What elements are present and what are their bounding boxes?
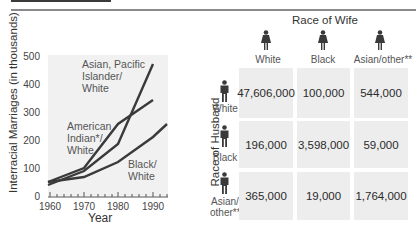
- x-tick: 1990: [138, 201, 168, 212]
- annotation-line: Black/: [128, 158, 157, 170]
- row-header-asian-other: Asian/ other**: [210, 196, 240, 218]
- annotation-line: White: [128, 170, 157, 182]
- table-cell: 47,606,000: [239, 68, 293, 118]
- table-cell: 196,000: [239, 121, 293, 168]
- row-header-white: White: [210, 103, 240, 114]
- annotation-american-indian-white: American Indian*/ White: [67, 120, 111, 156]
- male-figure-icon: [219, 172, 230, 194]
- x-tick: 1960: [35, 201, 65, 212]
- annotation-line: White: [67, 144, 111, 156]
- male-figure-icon: [219, 80, 230, 102]
- annotation-line: American: [67, 120, 111, 132]
- col-header-black: Black: [303, 54, 343, 65]
- annotation-line: Asian, Pacific: [82, 58, 145, 70]
- annotation-line: White: [82, 82, 145, 94]
- table-cell: 544,000: [354, 68, 408, 118]
- row-header-label: other**: [210, 207, 240, 218]
- table-cell: 59,000: [354, 121, 408, 168]
- row-header-label: White: [210, 103, 240, 114]
- row-header-label: Black: [210, 152, 240, 163]
- table-cell: 1,764,000: [354, 172, 408, 220]
- female-figure-icon: [317, 30, 329, 50]
- x-axis-label: Year: [88, 211, 112, 225]
- male-figure-icon: [219, 125, 230, 147]
- col-header-asian-other: Asian/other**: [350, 54, 416, 65]
- annotation-black-white: Black/ White: [128, 158, 157, 182]
- table-cell: 19,000: [297, 172, 350, 220]
- female-figure-icon: [260, 30, 272, 50]
- annotation-line: Indian*/: [67, 132, 111, 144]
- female-figure-icon: [374, 30, 386, 50]
- table-cell: 100,000: [297, 68, 350, 118]
- table-cell: 365,000: [239, 172, 293, 220]
- row-header-label: Asian/: [210, 196, 240, 207]
- row-header-black: Black: [210, 152, 240, 163]
- col-header-white: White: [248, 54, 288, 65]
- annotation-asian-white: Asian, Pacific Islander/ White: [82, 58, 145, 94]
- annotation-line: Islander/: [82, 70, 145, 82]
- wife-axis-title: Race of Wife: [292, 14, 358, 26]
- table-cell: 3,598,000: [297, 121, 350, 168]
